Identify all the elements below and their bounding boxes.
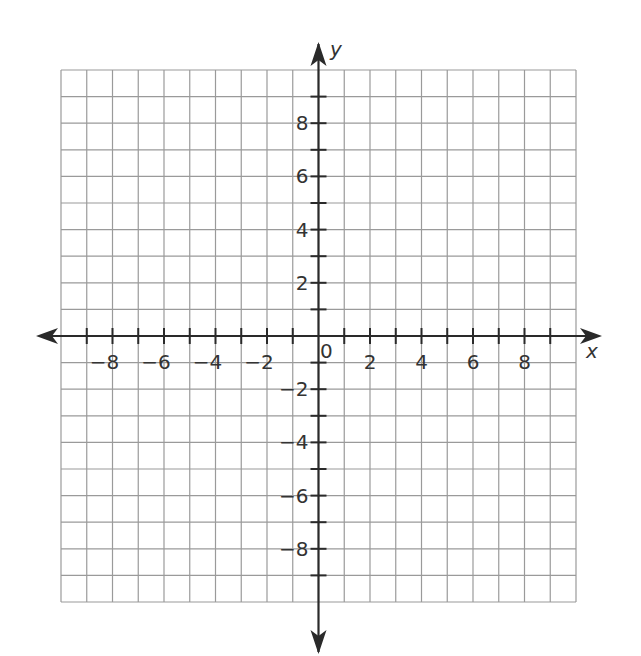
y-tick-label: −2 (279, 377, 308, 401)
y-tick-label: −6 (279, 484, 308, 508)
x-tick-label: 2 (364, 350, 377, 374)
y-tick-label: 6 (296, 164, 309, 188)
coordinate-plane: −8−6−4−224688642−2−4−6−8 x y 0 (0, 0, 641, 656)
x-tick-label: −4 (193, 350, 222, 374)
y-tick-label: −8 (279, 537, 308, 561)
axes (36, 42, 602, 654)
x-tick-label: −8 (90, 350, 119, 374)
y-tick-label: −4 (279, 430, 308, 454)
origin-label: 0 (320, 339, 333, 363)
y-tick-label: 4 (296, 218, 309, 242)
y-tick-label: 2 (296, 271, 309, 295)
y-tick-label: 8 (296, 111, 309, 135)
x-axis-label: x (585, 339, 598, 363)
x-tick-label: −6 (141, 350, 170, 374)
x-tick-label: 6 (467, 350, 480, 374)
x-tick-label: −2 (244, 350, 273, 374)
x-tick-label: 8 (518, 350, 531, 374)
y-axis-label: y (329, 37, 343, 61)
x-tick-label: 4 (415, 350, 428, 374)
